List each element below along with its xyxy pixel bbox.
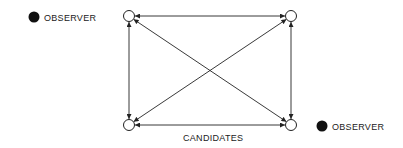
- candidate-node-top-right: [286, 11, 297, 22]
- candidates-observers-diagram: OBSERVER OBSERVER CANDIDATES: [0, 0, 403, 148]
- candidates-label: CANDIDATES: [183, 133, 243, 143]
- candidate-node-bottom-left: [124, 120, 135, 131]
- observer-label-bottom: OBSERVER: [332, 122, 384, 132]
- observer-dot-top: [29, 12, 40, 23]
- candidate-node-bottom-right: [286, 120, 297, 131]
- observer-label-top: OBSERVER: [44, 13, 96, 23]
- observer-dot-bottom: [317, 121, 328, 132]
- candidate-node-top-left: [124, 11, 135, 22]
